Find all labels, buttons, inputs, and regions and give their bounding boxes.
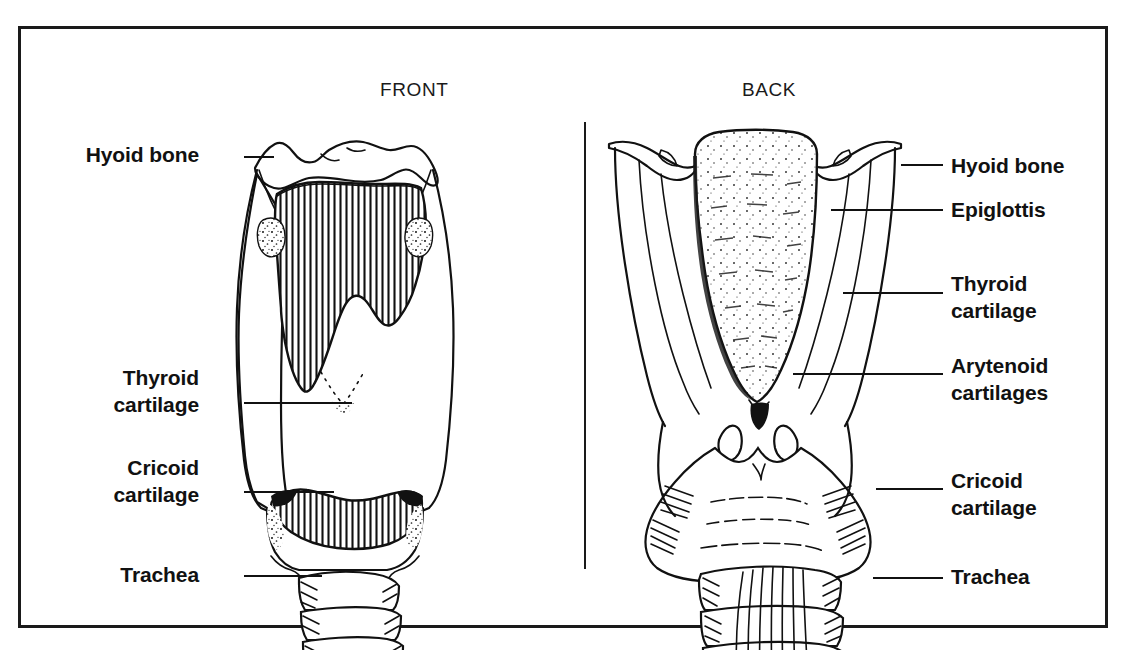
thyroid-superior-tubercle-right (405, 218, 433, 257)
leader-line-arytenoid-cartilages-back (793, 373, 943, 375)
label-arytenoid-cartilages-back: Arytenoid cartilages (951, 352, 1048, 406)
label-thyroid-cartilage-back: Thyroid cartilage (951, 270, 1036, 324)
leader-line-thyroid-cartilage-back (843, 292, 943, 294)
view-divider (584, 122, 586, 569)
thyroid-superior-tubercle-left (257, 218, 285, 257)
label-epiglottis-back: Epiglottis (951, 196, 1046, 223)
epiglottis-back (695, 130, 817, 402)
view-caption-back: BACK (742, 79, 796, 101)
leader-line-epiglottis-back (831, 209, 943, 211)
label-hyoid-bone-back: Hyoid bone (951, 152, 1064, 179)
back-view-illustration (601, 104, 1001, 604)
cricothyroid-membrane-front (271, 489, 422, 548)
label-trachea-front: Trachea (120, 561, 199, 588)
label-cricoid-cartilage-back: Cricoid cartilage (951, 467, 1036, 521)
leader-line-trachea-front (244, 575, 322, 577)
label-hyoid-bone-front: Hyoid bone (86, 141, 199, 168)
front-view-illustration (171, 104, 571, 604)
label-thyroid-cartilage-front: Thyroid cartilage (114, 364, 199, 418)
leader-line-cricoid-cartilage-back (876, 488, 943, 490)
view-caption-front: FRONT (380, 79, 448, 101)
trachea-front (299, 572, 405, 650)
leader-line-cricoid-cartilage-front (244, 491, 334, 493)
leader-line-thyroid-cartilage-front (244, 402, 352, 404)
figure-frame: FRONT BACK (18, 26, 1108, 628)
leader-line-hyoid-bone-back (901, 164, 943, 166)
thyrohyoid-membrane-front (275, 182, 426, 392)
hyoid-bone-front (255, 141, 438, 188)
epiglottis-petiole (750, 403, 769, 431)
label-trachea-back: Trachea (951, 563, 1030, 590)
larynx-anatomy-figure: FRONT BACK (0, 0, 1121, 650)
leader-line-hyoid-bone-front (244, 156, 274, 158)
thyroid-cartilage-lamina-right (845, 148, 895, 426)
trachea-back-ring-1 (699, 567, 841, 610)
trachea-ring-3 (303, 637, 403, 650)
hyoid-bone-back-left (609, 142, 699, 180)
label-cricoid-cartilage-front: Cricoid cartilage (114, 454, 199, 508)
hyoid-bone-back-right (811, 142, 901, 180)
laryngeal-prominence-notch (321, 370, 365, 404)
thyroid-cartilage-lamina-left (615, 148, 665, 426)
leader-line-trachea-back (873, 577, 943, 579)
trachea-back (699, 567, 845, 650)
